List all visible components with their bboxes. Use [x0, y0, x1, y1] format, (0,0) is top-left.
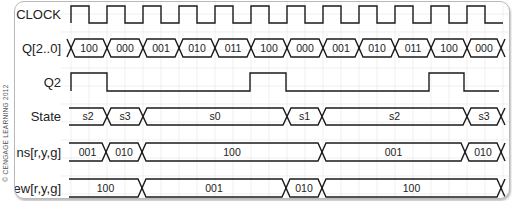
- signal-label-state: State: [31, 109, 61, 124]
- signal-waves: 100000001010011100000001010011100000s2s3…: [67, 6, 505, 197]
- grid-lines: [61, 2, 509, 198]
- bus-value: 100: [80, 42, 98, 54]
- bus-value: 011: [405, 42, 422, 54]
- signal-clock: [71, 6, 503, 23]
- bus-value: 100: [440, 42, 458, 54]
- bus-value: s3: [119, 110, 130, 122]
- bus-value: 000: [116, 42, 134, 54]
- signal-label-q: Q[2..0]: [22, 41, 61, 56]
- timing-diagram-panel: CLOCKQ[2..0]Q2Statens[r,y,g]ew[r,y,g] 10…: [14, 1, 510, 199]
- bus-value: 001: [152, 42, 170, 54]
- bus-value: 010: [188, 42, 206, 54]
- bus-value: s0: [209, 110, 220, 122]
- bus-value: 011: [225, 42, 242, 54]
- bus-value: 100: [97, 182, 115, 194]
- bus-value: 001: [385, 146, 403, 158]
- bus-value: 100: [223, 146, 241, 158]
- signal-label-ns: ns[r,y,g]: [16, 145, 61, 160]
- bus-value: 000: [475, 42, 493, 54]
- signal-q: 100000001010011100000001010011100000: [67, 39, 505, 57]
- signal-label-q2: Q2: [44, 75, 61, 90]
- bus-value: 100: [403, 182, 421, 194]
- bus-value: 010: [115, 146, 133, 158]
- signal-labels: CLOCKQ[2..0]Q2Statens[r,y,g]ew[r,y,g]: [15, 7, 61, 196]
- bus-value: 001: [79, 146, 97, 158]
- signal-q2: [71, 73, 499, 91]
- bus-value: 001: [332, 42, 350, 54]
- bus-value: s1: [299, 110, 310, 122]
- bus-value: s2: [82, 110, 93, 122]
- bus-value: 010: [295, 182, 313, 194]
- bus-value: 010: [474, 146, 492, 158]
- bus-value: 000: [296, 42, 314, 54]
- copyright-notice: © CENGAGE LEARNING 2012: [2, 68, 12, 198]
- bus-value: 001: [205, 182, 223, 194]
- signal-label-clock: CLOCK: [16, 7, 61, 22]
- signal-label-ew: ew[r,y,g]: [15, 181, 61, 196]
- timing-waveforms: CLOCKQ[2..0]Q2Statens[r,y,g]ew[r,y,g] 10…: [15, 2, 509, 198]
- bus-value: 010: [368, 42, 386, 54]
- bus-value: s3: [478, 110, 489, 122]
- bus-value: 100: [260, 42, 278, 54]
- bus-value: s2: [389, 110, 400, 122]
